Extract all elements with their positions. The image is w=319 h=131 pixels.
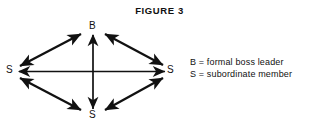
legend: B = formal boss leader S = subordinate m…	[190, 57, 315, 80]
edge-bottom-to-right	[105, 78, 163, 110]
node-label-left-s: S	[6, 65, 13, 75]
figure-title: FIGURE 3	[0, 5, 319, 16]
node-label-bottom-s: S	[89, 110, 96, 120]
legend-entry-b: B = formal boss leader	[190, 57, 315, 69]
edge-left-to-top	[20, 34, 81, 66]
node-label-top-b: B	[89, 21, 96, 31]
node-label-right-s: S	[167, 65, 174, 75]
figure-root: FIGURE 3	[0, 0, 319, 131]
edge-top-to-right	[105, 34, 163, 65]
legend-entry-s: S = subordinate member	[190, 69, 315, 81]
edge-left-to-bottom	[20, 78, 81, 110]
diagram-area: B S S S	[0, 18, 185, 131]
